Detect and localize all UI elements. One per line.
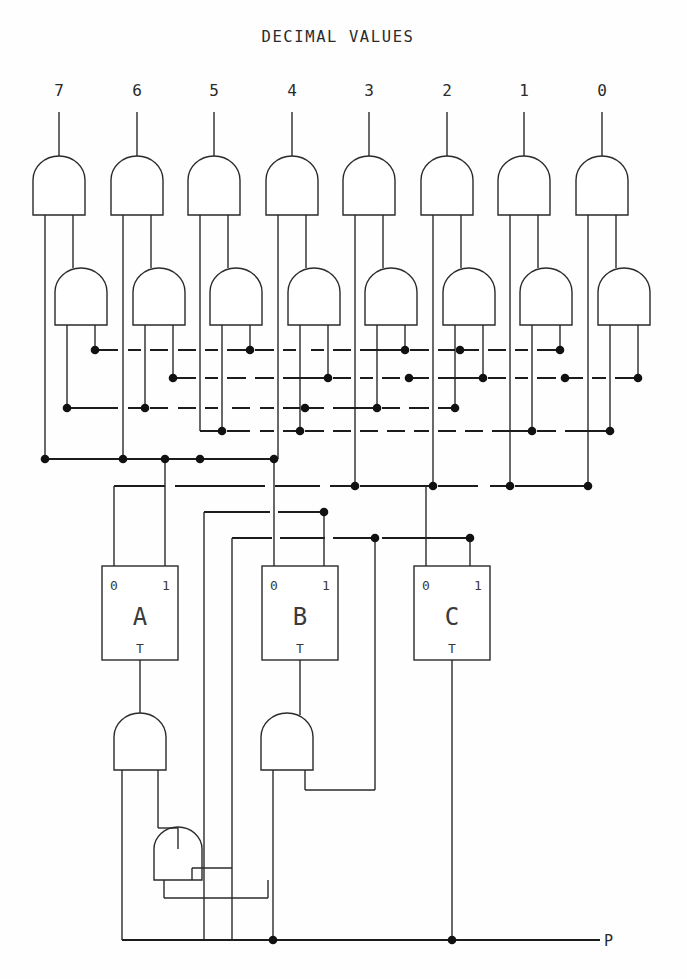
and-gate-stage2-2[interactable]	[443, 268, 495, 325]
junction-dot	[91, 346, 100, 355]
junction-dot	[371, 534, 380, 543]
and-gate-stage2-6[interactable]	[133, 268, 185, 325]
junction-dot	[479, 374, 488, 383]
junction-dot	[456, 346, 465, 355]
decimal-label-6: 6	[132, 81, 142, 100]
and-gate-decimal-5[interactable]	[188, 156, 240, 215]
and-gate-output-b[interactable]	[261, 713, 313, 770]
flipflop-b-input-0-label: 0	[270, 578, 278, 593]
and-gate-decimal-1[interactable]	[498, 156, 550, 215]
junction-dot	[506, 482, 515, 491]
junction-dot	[405, 374, 414, 383]
page-title: DECIMAL VALUES	[261, 28, 414, 46]
junction-dot	[466, 534, 475, 543]
junction-dot	[301, 404, 310, 413]
and-gate-stage2-5[interactable]	[210, 268, 262, 325]
flipflop-b-clock-label: T	[296, 641, 304, 656]
decimal-label-7: 7	[54, 81, 64, 100]
bottom-gate-row	[114, 713, 313, 880]
junction-dot	[63, 404, 72, 413]
and-gate-stage2-3[interactable]	[365, 268, 417, 325]
horizontal-bus-lines	[45, 350, 638, 538]
and-gate-decimal-0[interactable]	[576, 156, 628, 215]
junction-dot	[119, 455, 128, 464]
junction-dot	[196, 455, 205, 464]
flipflop-a-label: A	[133, 603, 148, 631]
junction-dot	[451, 404, 460, 413]
and-gate-decimal-2[interactable]	[421, 156, 473, 215]
and-gate-decimal-6[interactable]	[111, 156, 163, 215]
second-gate-row	[55, 268, 650, 325]
flipflop-c-input-0-label: 0	[422, 578, 430, 593]
circuit-diagram-canvas: DECIMAL VALUES 7 6 5 4 3 2 1 0	[0, 0, 687, 979]
decimal-label-2: 2	[442, 81, 452, 100]
junction-dot	[528, 427, 537, 436]
decimal-label-5: 5	[209, 81, 219, 100]
decimal-label-0: 0	[597, 81, 607, 100]
flipflop-c-clock-label: T	[448, 641, 456, 656]
junction-dot	[161, 455, 170, 464]
junction-dot	[351, 482, 360, 491]
junction-dot	[324, 374, 333, 383]
flipflop-b[interactable]: 0 1 B T	[262, 566, 338, 660]
junction-dot	[429, 482, 438, 491]
junction-dot	[141, 404, 150, 413]
junction-dot	[448, 936, 457, 945]
decimal-output-stems	[59, 112, 602, 158]
junction-dot	[270, 455, 279, 464]
flipflop-row: 0 1 A T 0 1 B T 0 1 C T	[102, 566, 490, 660]
junction-dot	[218, 427, 227, 436]
junction-dot	[246, 346, 255, 355]
and-gate-stage2-7[interactable]	[55, 268, 107, 325]
flipflop-b-input-1-label: 1	[322, 578, 330, 593]
and-gate-decimal-7[interactable]	[33, 156, 85, 215]
and-gate-output-a[interactable]	[114, 713, 166, 770]
and-gate-stage2-0[interactable]	[598, 268, 650, 325]
flipflop-c-input-1-label: 1	[474, 578, 482, 593]
top-gate-row	[33, 156, 628, 215]
junction-dot	[269, 936, 278, 945]
flipflop-a-clock-label: T	[136, 641, 144, 656]
logic-circuit-svg: DECIMAL VALUES 7 6 5 4 3 2 1 0	[0, 0, 687, 979]
flipflop-a-input-1-label: 1	[162, 578, 170, 593]
junction-dot	[41, 455, 50, 464]
junction-dot	[606, 427, 615, 436]
and-gate-stage2-1[interactable]	[520, 268, 572, 325]
junction-dot	[556, 346, 565, 355]
and-gate-decimal-4[interactable]	[266, 156, 318, 215]
decimal-label-1: 1	[519, 81, 529, 100]
flipflop-a-input-0-label: 0	[110, 578, 118, 593]
decimal-label-4: 4	[287, 81, 297, 100]
junction-dot	[320, 508, 329, 517]
and-gate-decimal-3[interactable]	[343, 156, 395, 215]
flipflop-c-label: C	[445, 603, 459, 631]
junction-dot	[584, 482, 593, 491]
output-label-p: P	[604, 932, 613, 950]
flipflop-b-label: B	[293, 603, 307, 631]
flipflop-a[interactable]: 0 1 A T	[102, 566, 178, 660]
flipflop-c[interactable]: 0 1 C T	[414, 566, 490, 660]
junction-dot	[561, 374, 570, 383]
decimal-label-3: 3	[364, 81, 374, 100]
decimal-value-labels: 7 6 5 4 3 2 1 0	[54, 81, 607, 100]
junction-dot	[169, 374, 178, 383]
junction-dot	[296, 427, 305, 436]
junction-dot	[634, 374, 643, 383]
junction-dot	[373, 404, 382, 413]
junction-dot	[401, 346, 410, 355]
and-gate-stage2-4[interactable]	[288, 268, 340, 325]
